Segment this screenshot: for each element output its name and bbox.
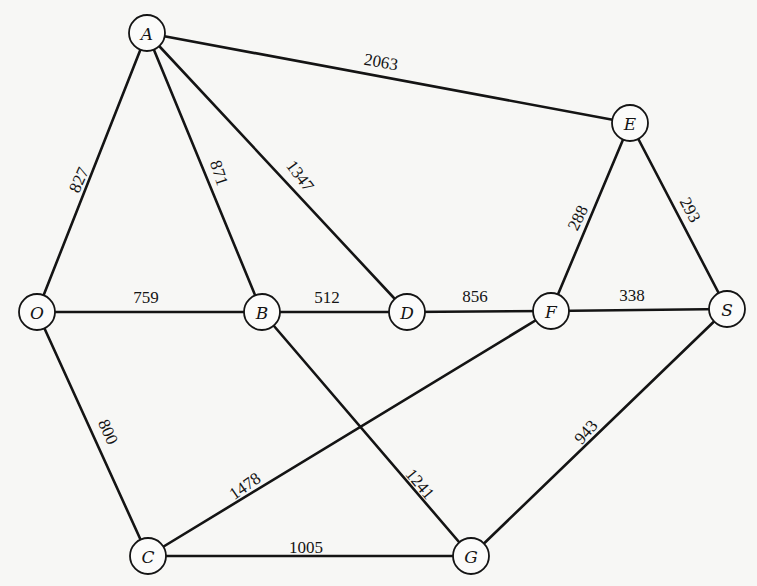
node-O: O bbox=[19, 294, 55, 330]
node-label: G bbox=[464, 547, 478, 567]
edge-weight-A-O: 827 bbox=[65, 164, 93, 195]
node-D: D bbox=[389, 294, 425, 330]
node-C: C bbox=[130, 538, 166, 574]
node-label: B bbox=[255, 303, 269, 323]
edge-B-G bbox=[262, 312, 471, 556]
node-label: S bbox=[721, 300, 733, 320]
node-label: A bbox=[139, 24, 153, 44]
edge-C-F bbox=[148, 311, 551, 556]
edge-A-B bbox=[147, 33, 262, 312]
node-A: A bbox=[129, 15, 165, 51]
edge-weight-B-D: 512 bbox=[314, 288, 340, 307]
node-label: E bbox=[623, 114, 637, 134]
weighted-graph-diagram: 2063827871134728829375951285633880012411… bbox=[0, 0, 757, 586]
edge-weight-O-C: 800 bbox=[94, 416, 122, 447]
node-S: S bbox=[709, 291, 745, 327]
edge-weight-E-F: 288 bbox=[564, 202, 592, 233]
node-G: G bbox=[453, 538, 489, 574]
edge-weight-B-G: 1241 bbox=[402, 465, 438, 503]
edge-weight-D-F: 856 bbox=[462, 287, 488, 306]
edge-weight-S-G: 943 bbox=[570, 416, 601, 448]
node-label: C bbox=[141, 547, 154, 567]
edge-E-S bbox=[630, 123, 727, 309]
edge-F-S bbox=[551, 309, 727, 311]
edge-O-C bbox=[37, 312, 148, 556]
edge-E-F bbox=[551, 123, 630, 311]
node-label: O bbox=[30, 303, 44, 323]
node-label: D bbox=[399, 303, 414, 323]
edge-weight-A-E: 2063 bbox=[363, 50, 400, 75]
edge-D-F bbox=[407, 311, 551, 312]
edge-weight-A-D: 1347 bbox=[282, 157, 318, 196]
node-F: F bbox=[533, 293, 569, 329]
edge-weight-F-S: 338 bbox=[619, 286, 645, 305]
node-B: B bbox=[244, 294, 280, 330]
edge-weights-layer: 2063827871134728829375951285633880012411… bbox=[65, 50, 704, 557]
node-E: E bbox=[612, 105, 648, 141]
node-label: F bbox=[544, 302, 558, 322]
edge-weight-C-G: 1005 bbox=[289, 538, 323, 557]
edge-weight-O-B: 759 bbox=[133, 288, 159, 307]
edge-S-G bbox=[471, 309, 727, 556]
